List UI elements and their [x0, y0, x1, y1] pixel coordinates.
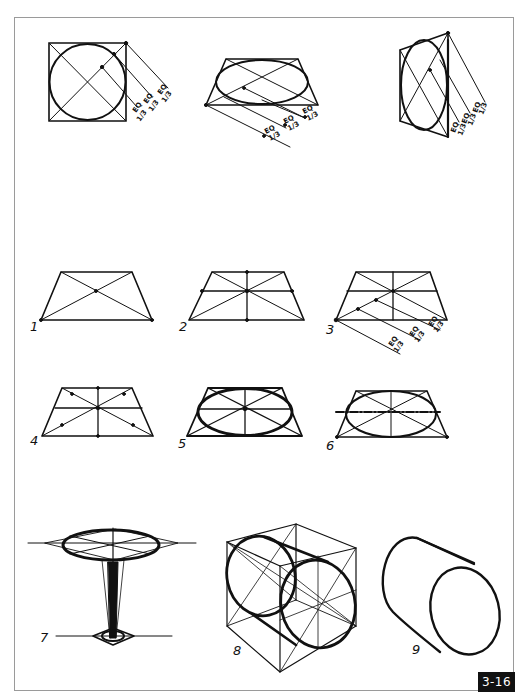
- eq-labels-figure-a: EQ 1/3 EQ 1/3 EQ 1/3: [131, 83, 174, 123]
- step-label-2: 2: [179, 319, 187, 334]
- figure-step-4: [42, 387, 153, 438]
- eq-labels-figure-b: EQ 1/3 EQ 1/3 EQ 1/3: [263, 104, 320, 143]
- step-label-5: 5: [178, 436, 186, 451]
- step-label-3: 3: [326, 322, 334, 337]
- figure-square-horizontal: [204, 59, 318, 147]
- drawing-canvas: EQ 1/3 EQ 1/3 EQ 1/3 EQ 1/3 EQ 1/3 EQ 1/…: [0, 0, 525, 695]
- figure-step-1: [40, 272, 154, 322]
- figure-step-5: [187, 388, 302, 436]
- step-label-1: 1: [30, 319, 38, 334]
- eq-labels-figure-c: EQ 1/3 EQ 1/3 EQ 1/3: [449, 101, 489, 137]
- step-label-9: 9: [412, 642, 420, 657]
- step-label-8: 8: [233, 643, 241, 658]
- figure-number-badge: 3-16: [478, 672, 515, 692]
- step-label-7: 7: [40, 630, 49, 645]
- figure-step-9-cylinder: [383, 538, 509, 662]
- figure-step-2: [189, 271, 304, 322]
- step-label-6: 6: [326, 438, 334, 453]
- step-label-4: 4: [30, 433, 38, 448]
- drawing-sheet: EQ 1/3 EQ 1/3 EQ 1/3 EQ 1/3 EQ 1/3 EQ 1/…: [0, 0, 525, 695]
- figure-step-7-table: [28, 528, 196, 645]
- figure-step-6: [336, 391, 449, 439]
